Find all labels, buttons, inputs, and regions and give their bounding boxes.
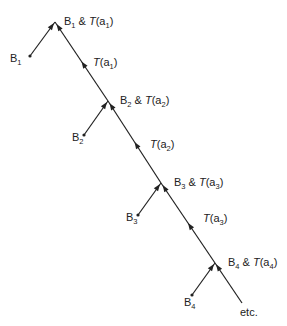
segment-mid-arrow xyxy=(82,62,88,69)
branch-label-b3: B3 xyxy=(126,211,138,226)
segment-label-3: T(a3) xyxy=(203,212,227,227)
segment-mid-arrow xyxy=(188,223,194,230)
branch-arrow-b3 xyxy=(154,184,160,191)
tail-label-etc: etc. xyxy=(240,306,258,318)
main-junction-arrow xyxy=(216,264,222,271)
junction-label-b2: B2 & T(a2) xyxy=(120,94,169,109)
main-junction-arrow xyxy=(110,103,116,110)
branch-arrow-b4 xyxy=(208,264,214,271)
junction-label-b4: B4 & T(a4) xyxy=(228,256,277,271)
segment-mid-arrow xyxy=(135,142,141,149)
main-junction-arrow xyxy=(163,185,169,192)
junction-label-b3: B3 & T(a3) xyxy=(174,176,223,191)
branch-label-b1: B1 xyxy=(10,52,22,67)
branch-arrow-b2 xyxy=(101,102,107,109)
branch-arrow-b1 xyxy=(48,23,54,30)
junction-label-b1: B1 & T(a1) xyxy=(64,15,113,30)
main-junction-arrow xyxy=(57,24,63,31)
branch-chain-diagram: B1B1 & T(a1)B2B2 & T(a2)B3B3 & T(a3)B4B4… xyxy=(0,0,287,326)
branch-label-b2: B2 xyxy=(72,131,84,146)
branch-label-b4: B4 xyxy=(184,296,196,311)
branch-start-dot-b1 xyxy=(28,54,31,57)
segment-label-2: T(a2) xyxy=(150,138,174,153)
segment-label-1: T(a1) xyxy=(93,56,117,71)
